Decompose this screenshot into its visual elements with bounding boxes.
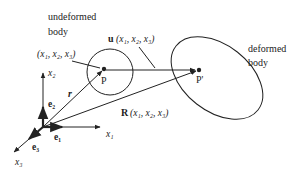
vectors xyxy=(43,47,196,127)
e3-basis-vector xyxy=(29,127,43,139)
deformed-body xyxy=(156,20,279,136)
e2-basis-label: e₂ xyxy=(48,99,55,109)
x2-axis-label: x₂ xyxy=(47,68,56,78)
coords-P-label: (x₁, x₂, x₃) xyxy=(37,49,75,60)
x1-axis-label: x₁ xyxy=(105,129,114,139)
point-P-prime-dot xyxy=(197,68,201,72)
R-vector-args: (x₁, x₂, x₃) xyxy=(130,108,168,119)
deformed-body-label-line2: body xyxy=(248,57,268,68)
coords-label-leader xyxy=(72,61,100,68)
r-vector-label: r xyxy=(68,88,72,99)
deformation-diagram: undeformed body deformed body (x₁, x₂, x… xyxy=(0,0,307,171)
e3-basis-label: e₃ xyxy=(32,142,39,152)
e1-basis-label: e₁ xyxy=(54,132,61,142)
point-P-prime-label: P' xyxy=(196,74,204,85)
deformed-body-label-line1: deformed xyxy=(248,43,286,54)
point-P-dot xyxy=(102,67,106,71)
u-label-leader xyxy=(139,47,155,68)
R-vector-label: R xyxy=(121,107,129,118)
undeformed-body-label-line1: undeformed xyxy=(48,11,96,22)
u-vector-label: u xyxy=(108,33,114,44)
R-position-vector xyxy=(43,71,196,127)
point-P-label: P xyxy=(101,75,107,86)
x3-axis-label: x₃ xyxy=(14,157,23,167)
u-vector-args: (x₁, x₂, x₃) xyxy=(116,34,154,45)
undeformed-body xyxy=(87,49,133,95)
undeformed-body-label-line2: body xyxy=(48,26,68,37)
